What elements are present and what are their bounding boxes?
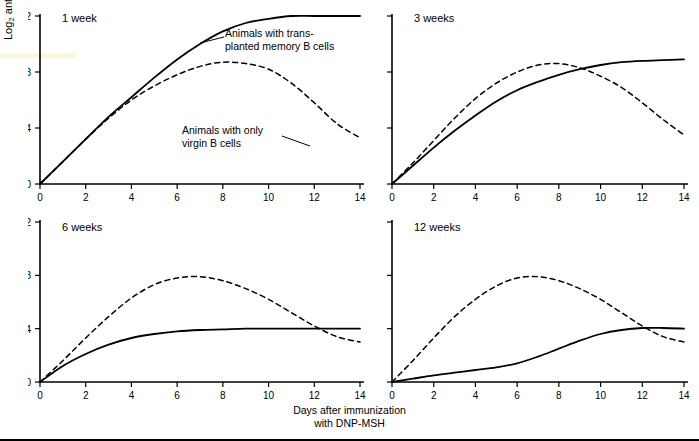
svg-text:12: 12 — [637, 192, 649, 202]
svg-text:0: 0 — [389, 390, 395, 400]
panel-6weeks-title: 6 weeks — [62, 221, 102, 233]
svg-text:12: 12 — [309, 192, 321, 202]
y-axis-title-sub: 2 — [7, 17, 16, 21]
svg-text:0: 0 — [28, 377, 31, 388]
svg-text:2: 2 — [431, 390, 437, 400]
svg-text:6: 6 — [514, 192, 520, 202]
svg-text:8: 8 — [220, 192, 226, 202]
panel-3weeks-plot: 02468101214 — [382, 6, 692, 202]
svg-text:4: 4 — [129, 192, 135, 202]
panel-12weeks-title: 12 weeks — [414, 221, 460, 233]
annotation-virgin-b-cells: Animals with only virgin B cells — [182, 124, 263, 149]
svg-text:12: 12 — [309, 390, 321, 400]
svg-text:10: 10 — [263, 390, 275, 400]
panel-6weeks-plot-wrap: 0246810121404812 — [28, 214, 368, 400]
svg-text:8: 8 — [28, 67, 31, 78]
svg-text:4: 4 — [473, 192, 479, 202]
y-axis-title-main: Log — [2, 22, 14, 40]
svg-text:14: 14 — [354, 390, 366, 400]
y-axis-title-rest: anti-DNP titer — [2, 0, 14, 17]
panel-12weeks-plot-wrap: 02468101214 — [382, 214, 692, 400]
svg-text:2: 2 — [431, 192, 437, 202]
panel-1week-title: 1 week — [62, 12, 97, 24]
annotation-memory-b-cells: Animals with trans- planted memory B cel… — [225, 27, 334, 52]
panel-3weeks-title: 3 weeks — [414, 12, 454, 24]
svg-text:8: 8 — [556, 192, 562, 202]
svg-text:2: 2 — [83, 390, 89, 400]
svg-text:0: 0 — [37, 192, 43, 202]
x-axis-title-line2: with DNP-MSH — [0, 417, 699, 430]
svg-text:12: 12 — [28, 11, 31, 22]
svg-text:4: 4 — [129, 390, 135, 400]
svg-text:10: 10 — [595, 192, 607, 202]
svg-text:6: 6 — [174, 192, 180, 202]
svg-text:4: 4 — [28, 324, 31, 335]
svg-text:6: 6 — [514, 390, 520, 400]
svg-text:12: 12 — [28, 217, 31, 228]
svg-text:8: 8 — [220, 390, 226, 400]
svg-text:8: 8 — [28, 270, 31, 281]
panel-12weeks-plot: 02468101214 — [382, 214, 692, 400]
x-axis-title: Days after immunization with DNP-MSH — [0, 404, 699, 430]
x-axis-title-line1: Days after immunization — [0, 404, 699, 417]
svg-text:14: 14 — [678, 192, 690, 202]
svg-text:8: 8 — [556, 390, 562, 400]
panel-6weeks-plot: 0246810121404812 — [28, 214, 368, 400]
svg-text:14: 14 — [354, 192, 366, 202]
svg-text:0: 0 — [37, 390, 43, 400]
svg-text:0: 0 — [389, 192, 395, 202]
figure-root: Log2 anti-DNP titer 0246810121404812 1 w… — [0, 0, 699, 441]
svg-text:10: 10 — [595, 390, 607, 400]
svg-text:4: 4 — [473, 390, 479, 400]
svg-text:4: 4 — [28, 123, 31, 134]
svg-text:12: 12 — [637, 390, 649, 400]
svg-text:14: 14 — [678, 390, 690, 400]
svg-text:6: 6 — [174, 390, 180, 400]
svg-text:0: 0 — [28, 179, 31, 190]
svg-text:2: 2 — [83, 192, 89, 202]
svg-text:10: 10 — [263, 192, 275, 202]
panel-3weeks-plot-wrap: 02468101214 — [382, 6, 692, 202]
y-axis-title: Log2 anti-DNP titer — [2, 0, 16, 40]
